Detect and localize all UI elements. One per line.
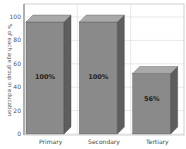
bar-secondary: 100%: [79, 15, 124, 134]
y-tick-label: 40: [13, 83, 21, 90]
bar-tertiary: 56%: [133, 66, 178, 134]
x-tick-label: Secondary: [88, 138, 120, 146]
y-tick-label: 20: [13, 107, 21, 114]
bar-primary: 100%: [26, 15, 71, 134]
x-tick-label: Tertiary: [145, 138, 169, 146]
x-axis-labels: PrimarySecondaryTertiary: [39, 138, 169, 146]
data-label: 56%: [144, 95, 160, 103]
data-label: 100%: [35, 73, 56, 81]
y-tick-label: 0: [17, 130, 21, 137]
bar-chart: 020406080100 100%100%56% PrimarySecondar…: [0, 0, 186, 149]
data-label: 100%: [88, 73, 109, 81]
y-tick-label: 80: [13, 36, 21, 43]
y-axis-title: % of each age group in education: [6, 24, 13, 117]
y-tick-label: 60: [13, 60, 21, 67]
x-tick-label: Primary: [39, 138, 63, 146]
y-tick-label: 100: [10, 13, 22, 20]
